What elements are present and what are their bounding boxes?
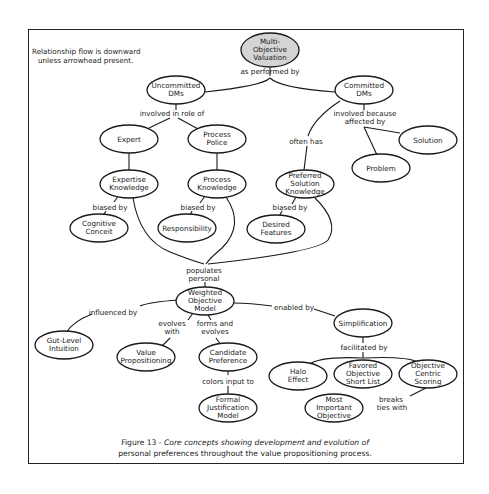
link-facilitated-by: facilitated by: [340, 343, 388, 352]
svg-text:Problem: Problem: [366, 164, 395, 173]
svg-text:Knowledge: Knowledge: [109, 183, 149, 192]
svg-text:DMs: DMs: [356, 89, 372, 98]
node-problem[interactable]: Problem: [352, 154, 410, 182]
link-enabled-by: enabled by: [274, 303, 315, 312]
svg-text:Simplification: Simplification: [339, 319, 388, 328]
node-weighted-objective-model[interactable]: Weighted Objective Model: [176, 287, 234, 315]
edge-asperformed-uncommitted: [205, 78, 270, 92]
node-responsibility[interactable]: Responsibility: [158, 214, 216, 242]
svg-text:Objective: Objective: [317, 411, 352, 420]
node-process-police[interactable]: Process Police: [188, 125, 246, 153]
link-populates-2: personal: [188, 274, 219, 283]
node-value-propositioning[interactable]: Value Propositioning: [117, 343, 175, 371]
caption-line-1: Figure 13 - Core concepts showing develo…: [121, 438, 370, 447]
link-influenced-by: influenced by: [89, 308, 138, 317]
svg-text:DMs: DMs: [168, 89, 184, 98]
legend: Relationship flow is downward unless arr…: [32, 47, 141, 65]
svg-text:Model: Model: [217, 411, 239, 420]
svg-text:Short List: Short List: [346, 377, 380, 386]
node-halo-effect[interactable]: Halo Effect: [269, 362, 327, 390]
node-favored-objective-short-list[interactable]: Favored Objective Short List: [334, 360, 392, 388]
svg-text:Preference: Preference: [209, 356, 248, 365]
node-preferred-solution-knowledge[interactable]: Preferred Solution Knowledge: [276, 170, 334, 198]
link-often-has: often has: [289, 137, 323, 146]
link-breaks-ties-2: ties with: [377, 403, 408, 412]
svg-text:Solution: Solution: [413, 136, 442, 145]
svg-text:Features: Features: [261, 228, 292, 237]
node-expertise-knowledge[interactable]: Expertise Knowledge: [100, 170, 158, 198]
node-expert[interactable]: Expert: [100, 125, 158, 153]
link-involved-because-2: affected by: [345, 117, 386, 126]
edge-oftenhas-preferred: [304, 146, 307, 170]
node-most-important-objective[interactable]: Most Important Objective: [305, 394, 363, 422]
node-cognitive-conceit[interactable]: Cognitive Conceit: [70, 214, 128, 242]
link-involved-in-role-of: involved in role of: [140, 109, 205, 118]
node-multi-objective-valuation[interactable]: Multi- Objective Valuation: [241, 33, 299, 67]
edge-enabled-simplification: [314, 309, 335, 316]
edge-scoring-breaks: [410, 388, 426, 396]
node-uncommitted-dms[interactable]: Uncommitted DMs: [147, 76, 205, 104]
svg-text:Police: Police: [207, 138, 228, 147]
nodes: Multi- Objective Valuation Uncommitted D…: [35, 33, 457, 422]
link-evolves-with-2: with: [164, 327, 179, 336]
svg-text:Knowledge: Knowledge: [285, 187, 325, 196]
svg-text:Responsibility: Responsibility: [162, 224, 212, 233]
svg-text:Conceit: Conceit: [85, 227, 112, 236]
edge-evolveswith-value: [162, 338, 170, 346]
edge-role-expert: [149, 118, 170, 128]
edge-asperformed-committed: [270, 78, 335, 92]
link-colors-input-to: colors input to: [202, 377, 254, 386]
legend-line-2: unless arrowhead present.: [38, 56, 133, 65]
link-biased-by-process: biased by: [181, 203, 217, 212]
edge-wom-enabled: [233, 303, 272, 306]
edge-affected-problem: [364, 127, 377, 155]
node-desired-features[interactable]: Desired Features: [247, 215, 305, 243]
node-process-knowledge[interactable]: Process Knowledge: [188, 170, 246, 198]
node-simplification[interactable]: Simplification: [334, 309, 392, 337]
svg-text:Scoring: Scoring: [415, 377, 442, 386]
caption-line-2: personal preferences throughout the valu…: [118, 449, 372, 458]
svg-text:Propositioning: Propositioning: [121, 356, 172, 365]
figure-caption: Figure 13 - Core concepts showing develo…: [118, 438, 372, 458]
legend-line-1: Relationship flow is downward: [32, 47, 141, 56]
link-forms-and-evolves-2: evolves: [201, 327, 229, 336]
svg-text:Intuition: Intuition: [49, 344, 79, 353]
svg-text:Valuation: Valuation: [253, 53, 287, 62]
node-objective-centric-scoring[interactable]: Objective Centric Scoring: [399, 360, 457, 388]
concept-map: Multi- Objective Valuation Uncommitted D…: [0, 0, 489, 494]
node-formal-justification-model[interactable]: Formal Justification Model: [199, 394, 257, 422]
link-as-performed-by: as performed by: [240, 67, 300, 76]
edge-affected-solution: [364, 127, 400, 133]
svg-text:Knowledge: Knowledge: [197, 183, 237, 192]
svg-text:Effect: Effect: [288, 375, 309, 384]
edge-wom-influenced: [140, 300, 178, 306]
link-biased-by-preferred: biased by: [273, 203, 309, 212]
link-biased-by-expertise: biased by: [93, 203, 129, 212]
node-candidate-preference[interactable]: Candidate Preference: [199, 343, 257, 371]
node-gut-level-intuition[interactable]: Gut-Level Intuition: [35, 331, 93, 359]
node-committed-dms[interactable]: Committed DMs: [335, 76, 393, 104]
svg-text:Expert: Expert: [117, 135, 141, 144]
svg-text:Model: Model: [194, 304, 216, 313]
node-solution[interactable]: Solution: [399, 126, 457, 154]
edge-committed-oftenhas: [308, 101, 340, 136]
edge-role-police: [178, 118, 198, 129]
